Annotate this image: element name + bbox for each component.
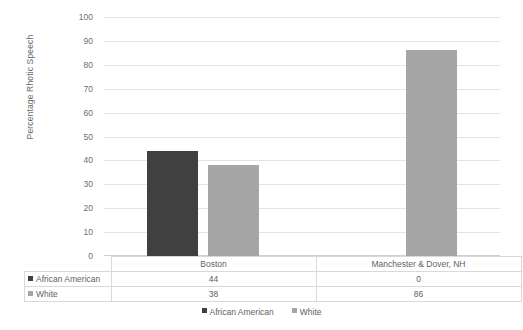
data-table: BostonManchester & Dover, NHAfrican Amer… xyxy=(24,256,522,302)
table-cell-value: 0 xyxy=(316,272,521,287)
y-tick-label: 60 xyxy=(84,108,93,117)
y-tick-label: 80 xyxy=(84,61,93,70)
y-tick-label: 40 xyxy=(84,156,93,165)
y-tick-label: 30 xyxy=(84,180,93,189)
table-cell-value: 38 xyxy=(111,287,316,302)
plot-area xyxy=(104,17,500,256)
gridline xyxy=(104,41,500,42)
table-row-label-text: White xyxy=(36,289,58,299)
table-row-label: African American xyxy=(25,272,112,287)
dark-square-icon xyxy=(202,308,207,313)
dark-square-icon xyxy=(28,276,33,281)
table-header-row: BostonManchester & Dover, NH xyxy=(25,257,522,272)
bar xyxy=(406,50,457,256)
gray-square-icon xyxy=(292,308,297,313)
table-column-header: Manchester & Dover, NH xyxy=(316,257,521,272)
y-tick-label: 100 xyxy=(79,13,93,22)
bar xyxy=(208,165,259,256)
table-row-label: White xyxy=(25,287,112,302)
table-cell-value: 86 xyxy=(316,287,521,302)
y-tick-label: 70 xyxy=(84,84,93,93)
table-cell-value: 44 xyxy=(111,272,316,287)
y-tick-label: 90 xyxy=(84,37,93,46)
table-column-header: Boston xyxy=(111,257,316,272)
y-tick-label: 20 xyxy=(84,204,93,213)
legend-label: African American xyxy=(210,307,274,317)
y-axis-tick-labels: 1009080706050403020100 xyxy=(60,17,100,256)
y-axis-title: Percentage Rhotic Speech xyxy=(25,7,39,167)
chart-legend: African AmericanWhite xyxy=(0,306,523,317)
y-tick-label: 10 xyxy=(84,228,93,237)
data-table-body: BostonManchester & Dover, NHAfrican Amer… xyxy=(25,257,522,302)
gridline xyxy=(104,17,500,18)
gray-square-icon xyxy=(28,291,33,296)
y-tick-label: 50 xyxy=(84,132,93,141)
legend-label: White xyxy=(300,307,322,317)
table-row-label-text: African American xyxy=(36,274,100,284)
table-row: African American440 xyxy=(25,272,522,287)
table-corner-cell xyxy=(25,257,112,272)
bar-chart: Percentage Rhotic Speech 100908070605040… xyxy=(0,0,523,330)
legend-item[interactable]: African American xyxy=(202,306,274,317)
legend-item[interactable]: White xyxy=(292,306,322,317)
table-row: White3886 xyxy=(25,287,522,302)
bar xyxy=(147,151,198,256)
